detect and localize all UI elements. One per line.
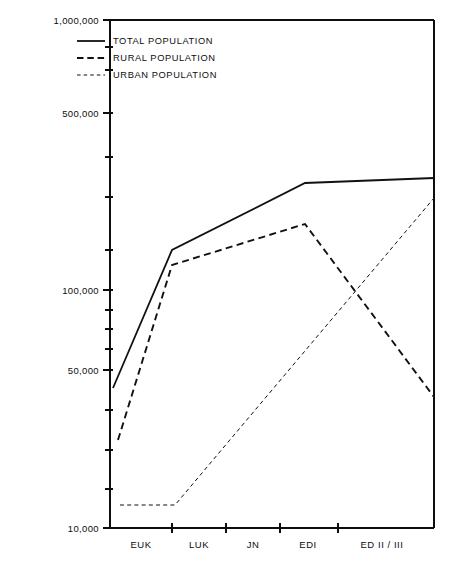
legend-label-total-population: TOTAL POPULATION: [113, 36, 213, 46]
y-axis-label-500000: 500,000: [62, 108, 99, 119]
x-axis-label-jn: JN: [247, 539, 260, 550]
plot-frame: [110, 20, 434, 528]
population-line-chart: 1,000,000 500,000 100,000 50,000 10,000 …: [0, 0, 452, 577]
series-line-urban-population: [120, 198, 434, 505]
legend-label-rural-population: RURAL POPULATION: [113, 53, 216, 63]
series-line-rural-population: [118, 224, 434, 440]
series-line-total-population: [113, 178, 434, 388]
x-axis-label-ed2-ed3: ED II / III: [360, 539, 403, 550]
y-axis-label-100000: 100,000: [62, 285, 99, 296]
chart-figure: 1,000,000 500,000 100,000 50,000 10,000 …: [0, 0, 452, 577]
y-axis-label-1000000: 1,000,000: [54, 15, 99, 26]
data-series-group: [113, 178, 434, 505]
x-axis-label-edi: EDI: [299, 539, 317, 550]
y-axis-label-10000: 10,000: [68, 523, 99, 534]
x-axis-label-euk: EUK: [130, 539, 151, 550]
y-axis-label-50000: 50,000: [68, 365, 99, 376]
x-axis-labels: EUK LUK JN EDI ED II / III: [130, 539, 403, 550]
y-axis-major-ticks: [103, 20, 113, 528]
chart-legend: TOTAL POPULATION RURAL POPULATION URBAN …: [77, 36, 217, 80]
legend-label-urban-population: URBAN POPULATION: [113, 70, 217, 80]
y-axis-labels: 1,000,000 500,000 100,000 50,000 10,000: [54, 15, 99, 534]
x-axis-label-luk: LUK: [189, 539, 209, 550]
